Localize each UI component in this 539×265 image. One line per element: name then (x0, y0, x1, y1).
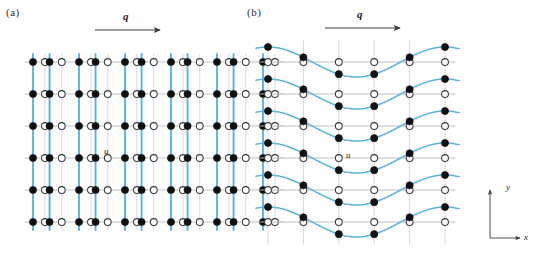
lattice-site-reference (58, 219, 65, 226)
lattice-site-displaced (213, 154, 220, 161)
lattice-site-displaced (230, 218, 237, 225)
lattice-site-displaced (75, 90, 82, 97)
lattice-site-displaced (75, 154, 82, 161)
lattice-site-displaced (29, 154, 36, 161)
lattice-site-displaced (121, 122, 128, 129)
axis-label-y: y (506, 182, 510, 192)
lattice-site-displaced (121, 218, 128, 225)
lattice-site-reference (442, 187, 449, 194)
lattice-site-reference (58, 123, 65, 130)
lattice-site-displaced (138, 186, 145, 193)
lattice-site-reference (196, 155, 203, 162)
lattice-site-reference (242, 155, 249, 162)
lattice-site-displaced (300, 86, 307, 93)
lattice-site-displaced (29, 122, 36, 129)
lattice-site-displaced (300, 54, 307, 61)
lattice-site-displaced (167, 218, 174, 225)
lattice-site-displaced (441, 139, 448, 146)
lattice-site-displaced (441, 43, 448, 50)
lattice-site-displaced (138, 154, 145, 161)
lattice-site-displaced (264, 139, 271, 146)
lattice-site-displaced (29, 186, 36, 193)
lattice-site-displaced (92, 186, 99, 193)
lattice-site-displaced (230, 154, 237, 161)
lattice-site-displaced (264, 107, 271, 114)
lattice-site-displaced (371, 103, 378, 110)
lattice-site-reference (442, 155, 449, 162)
lattice-site-reference (242, 91, 249, 98)
lattice-site-displaced (184, 154, 191, 161)
q-vector-label-a: q (123, 10, 129, 22)
lattice-site-displaced (121, 154, 128, 161)
lattice-site-reference (265, 123, 272, 130)
lattice-site-displaced (29, 90, 36, 97)
lattice-site-reference (371, 59, 378, 66)
lattice-site-reference (442, 219, 449, 226)
lattice-site-displaced (138, 90, 145, 97)
lattice-site-displaced (46, 58, 53, 65)
lattice-site-displaced (121, 58, 128, 65)
lattice-site-reference (265, 59, 272, 66)
lattice-site-reference (58, 59, 65, 66)
lattice-site-displaced (184, 186, 191, 193)
lattice-site-reference (442, 91, 449, 98)
lattice-site-displaced (230, 122, 237, 129)
lattice-site-reference (196, 187, 203, 194)
lattice-site-displaced (213, 58, 220, 65)
lattice-site-displaced (92, 58, 99, 65)
lattice-site-displaced (371, 167, 378, 174)
lattice-site-displaced (167, 90, 174, 97)
lattice-site-displaced (300, 214, 307, 221)
lattice-site-displaced (92, 154, 99, 161)
lattice-site-displaced (335, 231, 342, 238)
lattice-site-displaced (335, 135, 342, 142)
lattice-site-displaced (29, 58, 36, 65)
lattice-site-displaced (75, 58, 82, 65)
lattice-site-displaced (184, 58, 191, 65)
lattice-site-reference (242, 187, 249, 194)
lattice-site-displaced (29, 218, 36, 225)
lattice-site-displaced (46, 218, 53, 225)
lattice-site-displaced (184, 122, 191, 129)
lattice-site-displaced (167, 154, 174, 161)
lattice-site-reference (150, 219, 157, 226)
displacement-label-b: u (346, 150, 351, 160)
lattice-site-displaced (213, 186, 220, 193)
lattice-site-displaced (406, 214, 413, 221)
lattice-site-displaced (138, 122, 145, 129)
lattice-site-reference (335, 91, 342, 98)
lattice-site-displaced (300, 118, 307, 125)
lattice-site-reference (104, 91, 111, 98)
lattice-site-reference (242, 123, 249, 130)
lattice-site-displaced (371, 71, 378, 78)
lattice-site-reference (58, 187, 65, 194)
lattice-site-displaced (371, 231, 378, 238)
lattice-site-displaced (300, 182, 307, 189)
lattice-site-displaced (92, 90, 99, 97)
lattice-site-displaced (167, 122, 174, 129)
lattice-site-reference (104, 123, 111, 130)
lattice-site-displaced (441, 75, 448, 82)
lattice-site-reference (442, 123, 449, 130)
lattice-site-displaced (75, 218, 82, 225)
lattice-site-reference (104, 187, 111, 194)
lattice-site-displaced (335, 103, 342, 110)
lattice-site-reference (335, 59, 342, 66)
lattice-site-displaced (335, 167, 342, 174)
lattice-site-reference (58, 91, 65, 98)
lattice-site-reference (196, 219, 203, 226)
lattice-site-reference (265, 219, 272, 226)
lattice-site-displaced (213, 218, 220, 225)
lattice-site-displaced (300, 150, 307, 157)
lattice-site-displaced (406, 182, 413, 189)
lattice-site-displaced (371, 199, 378, 206)
lattice-site-reference (150, 59, 157, 66)
lattice-site-reference (371, 91, 378, 98)
panel-a (25, 54, 283, 230)
axis-label-x: x (524, 232, 528, 242)
lattice-site-reference (150, 187, 157, 194)
lattice-site-displaced (441, 203, 448, 210)
lattice-site-displaced (213, 90, 220, 97)
lattice-site-displaced (406, 86, 413, 93)
lattice-site-reference (335, 155, 342, 162)
